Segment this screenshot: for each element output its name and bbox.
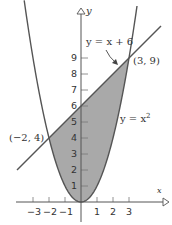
y-tick-label: 8 — [71, 69, 77, 79]
y-tick-label: 3 — [71, 149, 77, 159]
point-label-right: (3, 9) — [133, 56, 160, 66]
x-tick-label: −3 — [27, 207, 41, 217]
x-axis-label: x — [157, 187, 162, 195]
x-axis-arrow-icon — [163, 198, 169, 206]
x-tick-label: 3 — [126, 207, 132, 217]
y-tick-label: 9 — [71, 53, 77, 63]
parabola-equation-exponent: 2 — [146, 112, 150, 120]
y-tick-label: 4 — [71, 133, 77, 143]
x-tick-label: 2 — [110, 207, 116, 217]
parabola-equation-label: y = x2 — [120, 113, 151, 124]
x-tick-label: −2 — [43, 207, 57, 217]
shaded-region — [49, 58, 129, 202]
y-tick-label: 7 — [71, 85, 77, 95]
x-tick-label: −1 — [59, 207, 73, 217]
y-tick-label: 2 — [71, 165, 77, 175]
x-tick-label: 1 — [94, 207, 100, 217]
y-tick-label: 5 — [71, 117, 77, 127]
line-equation-label: y = x + 6 — [86, 37, 133, 47]
y-axis-arrow-icon — [77, 8, 85, 14]
point-label-left: (−2, 4) — [9, 133, 44, 143]
y-tick-label: 1 — [71, 181, 77, 191]
y-tick-label: 6 — [71, 101, 77, 111]
y-axis-label: y — [86, 6, 92, 16]
parabola-equation-base: y = x — [120, 113, 146, 124]
